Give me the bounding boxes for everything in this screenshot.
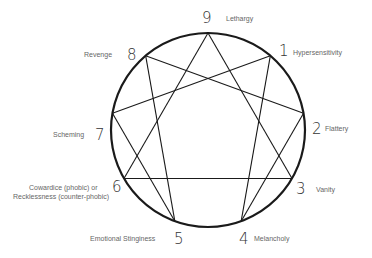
enneagram-circle xyxy=(111,33,305,227)
point-6-label-line2: Recklessness (counter-phobic) xyxy=(13,193,109,201)
point-6-number: 6 xyxy=(112,178,122,196)
enneagram-diagram: 9 Lethargy 1 Hypersensitivity 2 Flattery… xyxy=(0,0,372,258)
triangle-line-6-9 xyxy=(124,33,208,179)
point-7-label: Scheming xyxy=(53,131,84,139)
point-2-label: Flattery xyxy=(325,125,349,133)
point-3-number: 3 xyxy=(296,180,306,198)
point-6-label-line1: Cowardice (phobic) or xyxy=(29,184,98,192)
point-4-label: Melancholy xyxy=(254,235,290,243)
point-1-label: Hypersensitivity xyxy=(293,49,343,57)
point-5-label: Emotional Stinginess xyxy=(90,235,156,243)
point-8-label: Revenge xyxy=(84,51,112,59)
point-1-number: 1 xyxy=(279,42,289,60)
point-8-number: 8 xyxy=(127,46,137,64)
point-3-label: Vanity xyxy=(316,186,335,194)
point-9-label: Lethargy xyxy=(226,15,254,23)
point-2-number: 2 xyxy=(312,120,322,138)
point-7-number: 7 xyxy=(95,126,105,144)
point-4-number: 4 xyxy=(239,230,249,248)
point-5-number: 5 xyxy=(174,230,184,248)
point-9-number: 9 xyxy=(202,9,212,27)
